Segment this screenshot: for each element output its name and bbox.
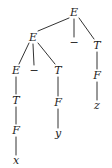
tree-edge-e_root-to-t_right (79, 18, 94, 39)
tree-node-f_ll: F (12, 125, 20, 136)
tree-node-z_leaf: z (94, 100, 100, 111)
tree-node-t_right: T (93, 40, 100, 51)
tree-node-t_mid: T (54, 65, 61, 76)
tree-node-e_ll: E (12, 65, 20, 76)
tree-node-y_leaf: y (55, 128, 61, 139)
parse-tree-edges (0, 0, 112, 168)
tree-edge-e_root-to-e_left (38, 18, 69, 31)
tree-node-e_left: E (29, 32, 37, 43)
tree-node-x_leaf: x (13, 155, 19, 166)
tree-edge-e_left-to-minus_left (33, 44, 34, 65)
tree-node-f_right: F (93, 70, 101, 81)
tree-edge-e_left-to-t_mid (38, 43, 55, 64)
tree-edge-e_left-to-e_ll (19, 43, 29, 64)
tree-node-e_root: E (70, 7, 78, 18)
parse-tree-figure: EE−TE−TFTFzFyx (0, 0, 112, 168)
tree-node-minus_root: − (69, 37, 78, 48)
tree-node-f_mid: F (54, 97, 62, 108)
tree-node-t_ll: T (12, 95, 19, 106)
tree-node-minus_left: − (29, 65, 38, 76)
